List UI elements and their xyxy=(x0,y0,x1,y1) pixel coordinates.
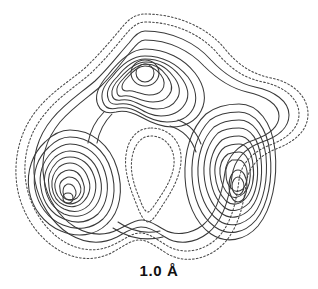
contour-left-5 xyxy=(48,157,95,211)
contour-left-2 xyxy=(34,137,114,228)
top-lobe-contours xyxy=(97,49,205,127)
contour-center-inner xyxy=(131,136,174,212)
right-lobe-contours xyxy=(185,104,276,240)
contour-top-5 xyxy=(117,64,172,102)
contour-center-outer xyxy=(126,128,182,222)
contour-figure: 1.0 Å xyxy=(0,0,318,289)
arc-bottom-saddle-2 xyxy=(113,228,163,239)
arc-top-left-saddle-1 xyxy=(97,114,112,143)
contour-plot-canvas xyxy=(0,0,318,289)
arc-top-right-saddle-2 xyxy=(170,126,196,152)
contour-left-9 xyxy=(63,184,76,200)
contour-left-1 xyxy=(28,130,120,235)
contour-left-3 xyxy=(40,144,107,222)
contour-top-8-core xyxy=(136,64,154,82)
scale-bar-label: 1.0 Å xyxy=(0,262,318,280)
contour-right-1 xyxy=(185,104,276,240)
left-lobe-contours xyxy=(28,130,120,235)
central-hole-contours xyxy=(126,128,182,222)
